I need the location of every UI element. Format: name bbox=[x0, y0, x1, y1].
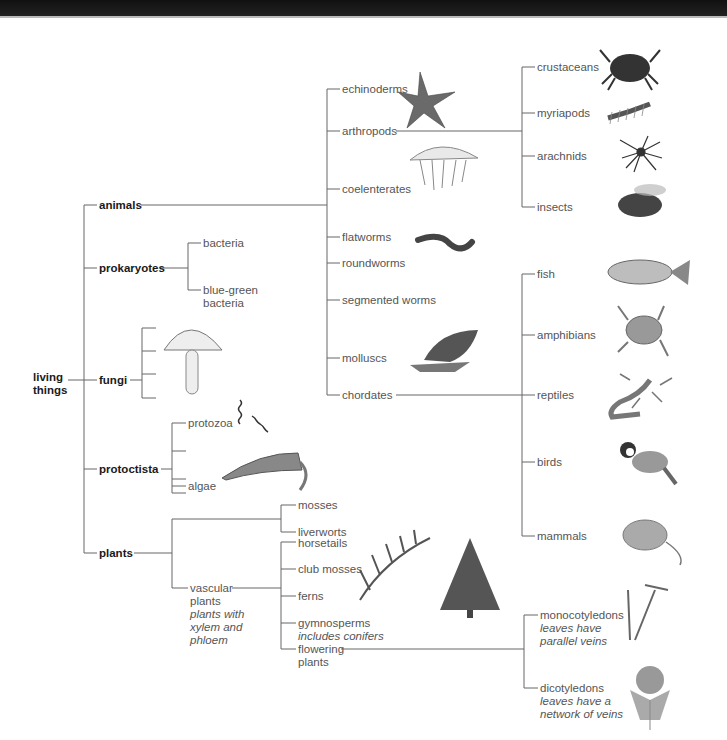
fish-label: fish bbox=[537, 268, 555, 281]
fish-illustration bbox=[608, 260, 690, 285]
kingdom-fungi: fungi bbox=[99, 374, 127, 387]
algae-illustration bbox=[222, 453, 306, 490]
flatworms-label: flatworms bbox=[342, 231, 391, 244]
crustaceans-label: crustaceans bbox=[537, 61, 599, 74]
flatworm-illustration bbox=[418, 237, 472, 249]
monocotyledons-label: monocotyledons leaves have parallel vein… bbox=[540, 609, 624, 648]
lizard-illustration bbox=[611, 374, 672, 417]
bee-illustration bbox=[618, 184, 666, 217]
myriapods-label: myriapods bbox=[537, 107, 590, 120]
protozoa-label: protozoa bbox=[188, 417, 233, 430]
bird-illustration bbox=[620, 442, 676, 484]
conifer-illustration bbox=[440, 538, 500, 618]
kingdom-animals: animals bbox=[99, 199, 142, 212]
birds-label: birds bbox=[537, 456, 562, 469]
spider-illustration bbox=[620, 136, 662, 172]
crab-illustration bbox=[600, 50, 660, 90]
kingdom-plants: plants bbox=[99, 547, 133, 560]
fern-illustration bbox=[360, 530, 430, 600]
starfish-illustration bbox=[398, 72, 455, 128]
kingdom-protoctista: protoctista bbox=[99, 463, 158, 476]
arachnids-label: arachnids bbox=[537, 150, 587, 163]
blue-green-bacteria-label: blue-greenbacteria bbox=[203, 284, 258, 310]
algae-label: algae bbox=[188, 480, 216, 493]
jellyfish-illustration bbox=[410, 147, 478, 190]
amphibians-label: amphibians bbox=[537, 329, 596, 342]
echinoderms-label: echinoderms bbox=[342, 83, 408, 96]
mushroom-illustration bbox=[164, 330, 222, 394]
monocot-illustration bbox=[628, 585, 668, 640]
horsetails-label: horsetails bbox=[298, 537, 347, 550]
insects-label: insects bbox=[537, 201, 573, 214]
frog-illustration bbox=[618, 306, 668, 356]
arthropods-label: arthropods bbox=[342, 125, 397, 138]
mouse-illustration bbox=[623, 520, 681, 565]
protozoa-illustration bbox=[239, 400, 269, 432]
dicot-illustration bbox=[630, 666, 670, 730]
dicotyledons-label: dicotyledons leaves have a network of ve… bbox=[540, 682, 623, 721]
reptiles-label: reptiles bbox=[537, 389, 574, 402]
segmented-worms-label: segmented worms bbox=[342, 294, 436, 307]
chordates-label: chordates bbox=[342, 389, 393, 402]
roundworms-label: roundworms bbox=[342, 257, 405, 270]
flowering-plants-label: flowering plants bbox=[298, 643, 344, 669]
club-mosses-label: club mosses bbox=[298, 563, 362, 576]
bacteria-label: bacteria bbox=[203, 237, 244, 250]
vascular-plants-label: vascular plants plants with xylem and ph… bbox=[190, 582, 244, 647]
myriapod-illustration bbox=[608, 104, 650, 124]
coelenterates-label: coelenterates bbox=[342, 183, 411, 196]
mosses-label: mosses bbox=[298, 499, 338, 512]
ferns-label: ferns bbox=[298, 590, 324, 603]
kingdom-prokaryotes: prokaryotes bbox=[99, 262, 165, 275]
gymnosperms-label: gymnosperms includes conifers bbox=[298, 617, 384, 643]
snail-illustration bbox=[410, 330, 478, 372]
molluscs-label: molluscs bbox=[342, 352, 387, 365]
mammals-label: mammals bbox=[537, 530, 587, 543]
root-living-things: livingthings bbox=[33, 371, 68, 397]
